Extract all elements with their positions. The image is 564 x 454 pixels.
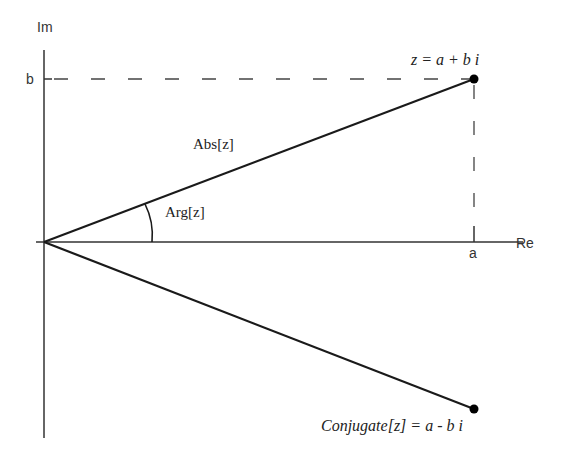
complex-plane-diagram: Im b Re a z = a + b i Abs[z] Arg[z] Conj… (0, 0, 564, 454)
z-point-label: z = a + b i (411, 52, 479, 68)
re-axis-label: Re (516, 236, 534, 250)
conjugate-label: Conjugate[z] = a - b i (321, 418, 463, 434)
abs-vector (44, 79, 474, 242)
a-tick-label: a (469, 246, 477, 260)
conjugate-vector (44, 242, 474, 409)
z-point (470, 75, 479, 84)
arg-arc (145, 204, 152, 242)
arg-label: Arg[z] (165, 205, 205, 220)
abs-label: Abs[z] (193, 137, 234, 152)
conjugate-point (470, 405, 479, 414)
diagram-graphics (0, 0, 564, 454)
b-tick-label: b (26, 72, 34, 86)
im-axis-label: Im (37, 20, 53, 34)
